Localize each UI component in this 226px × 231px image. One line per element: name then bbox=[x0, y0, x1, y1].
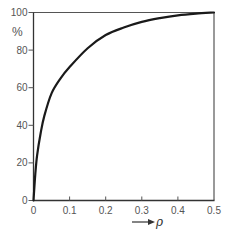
saturation-line-chart: 020406080100 00.10.20.30.40.5 % ρ bbox=[0, 0, 226, 231]
arrow-right-icon bbox=[132, 219, 155, 225]
x-tick-label: 0.4 bbox=[171, 205, 185, 216]
x-tick-label: 0.2 bbox=[99, 205, 113, 216]
y-tick-label: 100 bbox=[11, 7, 28, 18]
y-tick-label: 60 bbox=[16, 82, 28, 93]
x-axis-label-group: ρ bbox=[132, 215, 163, 229]
y-tick-label: 20 bbox=[16, 157, 28, 168]
y-tick-label: 80 bbox=[16, 45, 28, 56]
plot-frame bbox=[33, 12, 215, 201]
x-tick-label: 0.1 bbox=[63, 205, 77, 216]
x-axis-ticks: 00.10.20.30.40.5 bbox=[31, 197, 222, 217]
y-tick-label: 40 bbox=[16, 120, 28, 131]
x-tick-label: 0.5 bbox=[207, 205, 221, 216]
y-tick-label: 0 bbox=[22, 195, 28, 206]
data-series-curve bbox=[34, 13, 215, 201]
x-tick-label: 0 bbox=[31, 205, 37, 216]
x-axis-label: ρ bbox=[155, 215, 163, 229]
x-tick-label: 0.3 bbox=[135, 205, 149, 216]
y-axis-label: % bbox=[12, 25, 23, 39]
